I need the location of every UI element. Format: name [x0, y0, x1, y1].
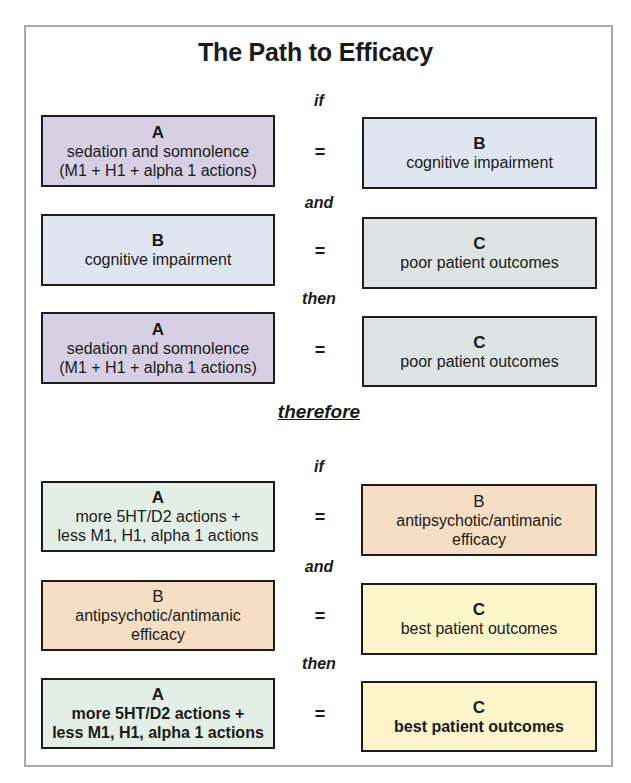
box-a-sedation: A sedation and somnolence (M1 + H1 + alp… — [41, 312, 275, 384]
box-a-5ht-d2-actions: A more 5HT/D2 actions + less M1, H1, alp… — [41, 678, 275, 749]
box-letter: A — [152, 123, 164, 142]
box-b-cognitive-impairment: B cognitive impairment — [41, 214, 275, 286]
box-letter: A — [152, 488, 164, 507]
box-letter: B — [473, 134, 485, 153]
connector-if: if — [219, 458, 419, 476]
box-c-best-outcomes: C best patient outcomes — [361, 583, 597, 655]
equals-sign: = — [308, 606, 332, 627]
box-letter: A — [152, 685, 164, 704]
equals-sign: = — [308, 507, 332, 528]
box-b-antipsychotic-efficacy: B antipsychotic/antimanic efficacy — [361, 484, 597, 556]
box-c-poor-outcomes: C poor patient outcomes — [362, 316, 597, 387]
box-text: poor patient outcomes — [400, 253, 558, 272]
connector-then: then — [219, 655, 419, 673]
box-text: efficacy — [131, 625, 185, 644]
box-text: efficacy — [452, 530, 506, 549]
box-c-poor-outcomes: C poor patient outcomes — [362, 217, 597, 289]
box-text: best patient outcomes — [394, 717, 564, 736]
equals-sign: = — [308, 142, 332, 163]
box-letter: C — [473, 333, 485, 352]
box-text: sedation and somnolence — [67, 339, 249, 358]
connector-and: and — [219, 558, 419, 576]
box-b-antipsychotic-efficacy: B antipsychotic/antimanic efficacy — [41, 580, 275, 651]
box-text: best patient outcomes — [401, 619, 558, 638]
box-letter: C — [473, 698, 485, 717]
box-text: (M1 + H1 + alpha 1 actions) — [59, 161, 256, 180]
box-text: more 5HT/D2 actions + — [76, 507, 241, 526]
box-letter: C — [473, 234, 485, 253]
box-text: more 5HT/D2 actions + — [72, 704, 245, 723]
box-text: antipsychotic/antimanic — [396, 511, 561, 530]
box-text: poor patient outcomes — [400, 352, 558, 371]
connector-and: and — [219, 194, 419, 212]
box-letter: B — [152, 587, 163, 606]
box-a-sedation: A sedation and somnolence (M1 + H1 + alp… — [41, 115, 275, 187]
box-letter: B — [152, 231, 164, 250]
box-text: antipsychotic/antimanic — [75, 606, 240, 625]
box-text: less M1, H1, alpha 1 actions — [58, 526, 259, 545]
equals-sign: = — [308, 241, 332, 262]
connector-therefore: therefore — [219, 401, 419, 423]
connector-if: if — [219, 92, 419, 110]
equals-sign: = — [308, 340, 332, 361]
box-letter: A — [152, 320, 164, 339]
box-text: less M1, H1, alpha 1 actions — [52, 723, 264, 742]
box-text: (M1 + H1 + alpha 1 actions) — [59, 358, 256, 377]
box-b-cognitive-impairment: B cognitive impairment — [362, 117, 597, 189]
box-a-5ht-d2-actions: A more 5HT/D2 actions + less M1, H1, alp… — [41, 481, 275, 552]
equals-sign: = — [308, 704, 332, 725]
connector-then: then — [219, 290, 419, 308]
box-c-best-outcomes: C best patient outcomes — [361, 681, 597, 752]
figure-title: The Path to Efficacy — [0, 38, 631, 67]
box-text: cognitive impairment — [85, 250, 232, 269]
box-letter: C — [473, 600, 485, 619]
box-letter: B — [473, 492, 484, 511]
box-text: sedation and somnolence — [67, 142, 249, 161]
box-text: cognitive impairment — [406, 153, 553, 172]
